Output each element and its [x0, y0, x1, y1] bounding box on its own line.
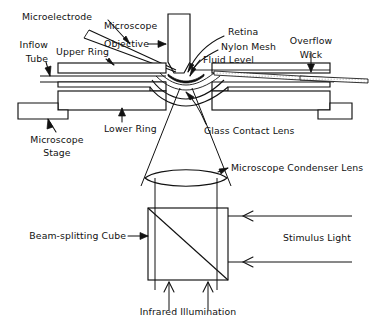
label-microscope-objective-line1: Microscope — [104, 20, 157, 31]
label-inflow-tube-line2: Tube — [25, 53, 48, 64]
label-fluid-level: Fluid Level — [203, 54, 254, 65]
apparatus-diagram: Microelectrode Microscope Objective Reti… — [0, 0, 372, 321]
figure-canvas: Microelectrode Microscope Objective Reti… — [0, 0, 372, 321]
label-nylon-mesh: Nylon Mesh — [221, 41, 276, 52]
label-microscope-stage-line2: Stage — [43, 147, 71, 158]
label-microscope-stage-line1: Microscope — [30, 134, 83, 145]
label-microelectrode: Microelectrode — [22, 11, 92, 22]
label-beam-splitting-cube: Beam-splitting Cube — [29, 230, 126, 241]
microscope-objective-shape — [168, 14, 190, 73]
label-microscope-condenser-lens: Microscope Condenser Lens — [231, 162, 363, 173]
label-retina: Retina — [228, 26, 258, 37]
lower-ring-left — [58, 91, 166, 110]
upper-ring-left — [58, 63, 166, 73]
lower-ring-right — [212, 91, 330, 110]
label-infrared-illumination: Infrared Illumination — [140, 306, 237, 317]
microscope-condenser-lens-shape — [145, 170, 227, 187]
label-lower-ring: Lower Ring — [104, 123, 157, 134]
label-microscope-objective-line2: Objective — [104, 38, 149, 49]
label-glass-contact-lens: Glass Contact Lens — [204, 125, 295, 136]
label-stimulus-light: Stimulus Light — [283, 232, 351, 243]
label-overflow-wick-line1: Overflow — [290, 35, 333, 46]
label-upper-ring: Upper Ring — [56, 46, 109, 57]
label-inflow-tube-line1: Inflow — [20, 39, 49, 50]
label-overflow-wick-line2: Wick — [300, 49, 323, 60]
